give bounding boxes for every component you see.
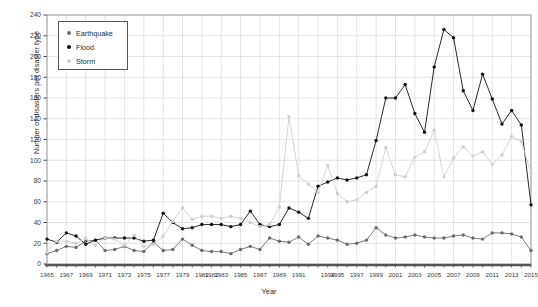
svg-text:1999: 1999 xyxy=(369,271,383,278)
svg-text:1985: 1985 xyxy=(234,271,248,278)
xtick-labels: 1965196719691971197319751977197919811982… xyxy=(40,271,538,278)
svg-text:2003: 2003 xyxy=(408,271,422,278)
svg-text:1979: 1979 xyxy=(176,271,190,278)
svg-text:40: 40 xyxy=(34,219,42,226)
svg-text:1965: 1965 xyxy=(40,271,54,278)
svg-text:80: 80 xyxy=(34,177,42,184)
svg-text:2001: 2001 xyxy=(389,271,403,278)
x-axis-title: Year xyxy=(0,287,538,296)
svg-text:2011: 2011 xyxy=(486,271,500,278)
svg-text:2009: 2009 xyxy=(466,271,480,278)
svg-text:2013: 2013 xyxy=(505,271,519,278)
svg-text:1973: 1973 xyxy=(118,271,132,278)
svg-text:1987: 1987 xyxy=(253,271,267,278)
legend-marker-icon xyxy=(64,59,73,63)
svg-text:1977: 1977 xyxy=(156,271,170,278)
svg-text:2007: 2007 xyxy=(447,271,461,278)
svg-text:2005: 2005 xyxy=(427,271,441,278)
legend-item-storm[interactable]: Storm xyxy=(64,54,122,68)
legend-marker-icon xyxy=(64,45,73,49)
svg-text:1967: 1967 xyxy=(59,271,73,278)
svg-text:1969: 1969 xyxy=(79,271,93,278)
svg-text:1991: 1991 xyxy=(292,271,306,278)
svg-text:1975: 1975 xyxy=(137,271,151,278)
legend-item-flood[interactable]: Flood xyxy=(64,40,122,54)
svg-text:2015: 2015 xyxy=(524,271,538,278)
svg-text:1971: 1971 xyxy=(98,271,112,278)
y-axis-title: Number of disasters per disaster type xyxy=(32,13,41,173)
svg-text:1983: 1983 xyxy=(214,271,228,278)
svg-text:20: 20 xyxy=(34,240,42,247)
legend-marker-icon xyxy=(64,31,73,35)
svg-text:1997: 1997 xyxy=(350,271,364,278)
svg-text:1995: 1995 xyxy=(331,271,345,278)
svg-text:60: 60 xyxy=(34,198,42,205)
chart-legend: Earthquake Flood Storm xyxy=(58,21,128,70)
svg-text:0: 0 xyxy=(37,260,41,267)
disasters-line-chart: 020406080100120140160180200220240 196519… xyxy=(0,0,538,307)
legend-label: Earthquake xyxy=(76,29,113,38)
legend-label: Storm xyxy=(76,57,95,66)
legend-item-earthquake[interactable]: Earthquake xyxy=(64,26,122,40)
legend-label: Flood xyxy=(76,43,94,52)
svg-text:1989: 1989 xyxy=(272,271,286,278)
